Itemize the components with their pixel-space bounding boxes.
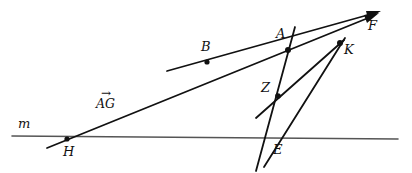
point-dot-H [64, 136, 69, 141]
label-vector-AG: → AG [96, 90, 115, 111]
vector-AG-text: AG [96, 96, 115, 111]
point-dot-A [285, 47, 291, 53]
geometry-canvas [0, 0, 412, 173]
segment-Z-to-K [256, 40, 344, 118]
point-dot-B [204, 59, 209, 64]
point-dot-Z [275, 93, 281, 99]
label-point-B: B [201, 40, 211, 53]
label-point-H: H [63, 145, 74, 158]
label-point-Z: Z [261, 81, 270, 94]
label-point-A: A [276, 27, 285, 40]
ray-H-to-F [47, 16, 373, 148]
geometry-figure: m H B A Z K E F → AG [0, 0, 412, 173]
point-dot-K [337, 40, 343, 46]
label-point-F: F [368, 19, 377, 32]
label-point-K: K [344, 43, 354, 56]
label-point-E: E [273, 143, 283, 156]
label-line-m: m [18, 117, 30, 130]
